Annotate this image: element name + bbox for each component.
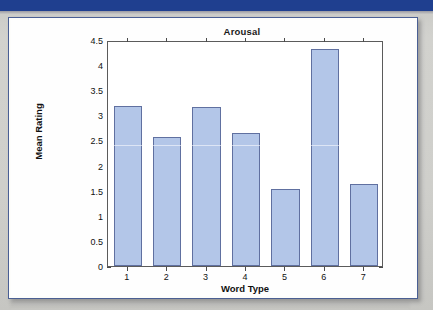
- x-tick-mark: [206, 267, 207, 271]
- y-tick-label: 1.5: [77, 187, 103, 197]
- plot-area: Arousal 00.511.522.533.544.5 1234567 Wor…: [11, 20, 415, 296]
- page-smudge: [10, 300, 410, 308]
- x-tick-mark: [363, 267, 364, 271]
- bar[interactable]: [192, 107, 220, 266]
- x-tick-mark-top: [363, 38, 364, 42]
- y-tick-label: 0: [77, 262, 103, 272]
- y-tick-label: 2.5: [77, 136, 103, 146]
- axes-frame: [107, 41, 383, 267]
- x-axis-ticks-top: [107, 37, 383, 42]
- chart-card-inner: Arousal 00.511.522.533.544.5 1234567 Wor…: [11, 20, 415, 296]
- top-banner-bar: [0, 0, 433, 11]
- bar[interactable]: [311, 49, 339, 266]
- x-tick-label: 5: [272, 272, 296, 282]
- page-background: Arousal 00.511.522.533.544.5 1234567 Wor…: [0, 0, 433, 310]
- x-tick-mark: [127, 267, 128, 271]
- bar[interactable]: [271, 189, 299, 266]
- x-tick-label: 1: [115, 272, 139, 282]
- x-tick-mark-top: [166, 38, 167, 42]
- bar[interactable]: [232, 133, 260, 266]
- chart-card: Arousal 00.511.522.533.544.5 1234567 Wor…: [8, 17, 418, 299]
- top-banner-shadow: [0, 11, 433, 14]
- y-tick-label: 2: [77, 162, 103, 172]
- chart-title: Arousal: [97, 26, 387, 37]
- x-tick-mark: [324, 267, 325, 271]
- x-tick-label: 7: [351, 272, 375, 282]
- y-tick-label: 3.5: [77, 86, 103, 96]
- y-axis-title: Mean Rating: [33, 77, 44, 187]
- x-tick-label: 3: [194, 272, 218, 282]
- x-tick-label: 2: [154, 272, 178, 282]
- bar[interactable]: [153, 137, 181, 266]
- y-tick-label: 0.5: [77, 237, 103, 247]
- x-tick-mark-top: [245, 38, 246, 42]
- y-tick-label: 4: [77, 61, 103, 71]
- x-tick-label: 6: [312, 272, 336, 282]
- y-tick-label: 3: [77, 111, 103, 121]
- y-tick-label: 1: [77, 212, 103, 222]
- x-tick-mark: [245, 267, 246, 271]
- x-tick-mark-top: [206, 38, 207, 42]
- y-axis-tick-labels: 00.511.522.533.544.5: [73, 41, 103, 267]
- x-tick-mark-top: [127, 38, 128, 42]
- x-axis-title: Word Type: [107, 283, 383, 294]
- y-tick-label: 4.5: [77, 36, 103, 46]
- x-tick-mark: [284, 267, 285, 271]
- bar[interactable]: [350, 184, 378, 266]
- x-tick-mark: [166, 267, 167, 271]
- x-tick-mark-top: [284, 38, 285, 42]
- bar[interactable]: [114, 106, 142, 266]
- x-tick-label: 4: [233, 272, 257, 282]
- x-tick-mark-top: [324, 38, 325, 42]
